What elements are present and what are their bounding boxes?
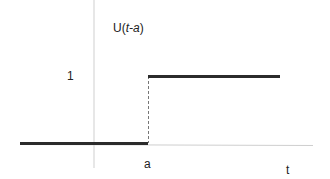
function-label-var: t-a: [126, 21, 140, 35]
step-point-label: a: [144, 158, 151, 170]
x-axis-label: t: [286, 164, 289, 176]
function-label-suffix: ): [140, 21, 144, 35]
function-label-prefix: U(: [113, 21, 126, 35]
unit-step-plot: [0, 0, 330, 179]
y-tick-label: 1: [67, 70, 74, 82]
function-label: U(t-a): [113, 22, 144, 34]
